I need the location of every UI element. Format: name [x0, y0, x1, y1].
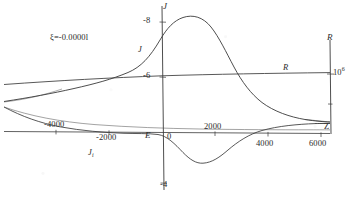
- x-axis-label-E: E: [145, 131, 151, 140]
- x-tick-label--4000: -4000: [44, 120, 64, 129]
- plot-svg: [0, 0, 358, 204]
- curve-label-J-real: J: [138, 45, 142, 54]
- y-axis-label: J: [163, 2, 167, 11]
- curve-label-J-imag-subscript: i: [92, 152, 94, 158]
- x-tick-label-4000: 4000: [256, 139, 273, 148]
- x-tick-label-6000: 6000: [309, 139, 326, 148]
- annotation-xi: ξ=-0.0000l: [50, 33, 88, 42]
- x-tick-label-2000: 2000: [204, 122, 221, 131]
- x-axis-right-label-Z: Z: [324, 122, 329, 131]
- curve-label-J-imag: Ji: [88, 148, 94, 158]
- secondary-y-axis: [330, 40, 331, 134]
- secondary-y-tick-label: 106: [333, 66, 345, 77]
- curve-R: [4, 73, 330, 85]
- secondary-tick-exponent: 6: [342, 66, 345, 72]
- secondary-tick-mantissa: 10: [333, 67, 342, 77]
- x-tick-label-0: 0: [167, 132, 171, 141]
- x-tick-label--2000: -2000: [96, 133, 116, 142]
- y-tick-label-4: -4: [160, 180, 167, 189]
- curve-label-R-inline: R: [283, 63, 288, 72]
- y-tick-label-8: -8: [143, 16, 150, 25]
- figure-canvas: ξ=-0.0000l J -8 -6 -4 J Ji R R 106 Z -40…: [0, 0, 358, 204]
- y-tick-label-6: -6: [143, 71, 150, 80]
- secondary-axis-label-R: R: [327, 33, 333, 42]
